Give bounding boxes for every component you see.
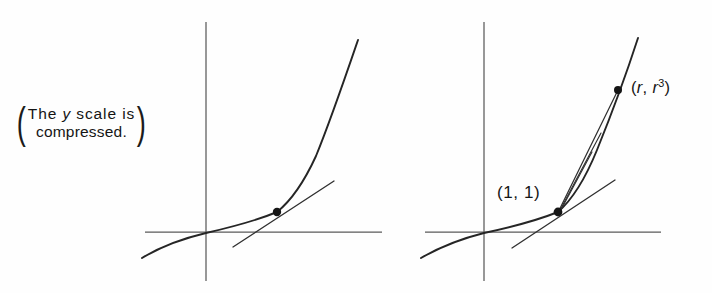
right-panel-secant-line-inner bbox=[559, 152, 592, 214]
right-panel-cubic-curve bbox=[421, 38, 638, 258]
label-r-sep: , bbox=[643, 78, 653, 96]
right-panel-point-r-r3 bbox=[614, 86, 622, 94]
figure-container: ( The y scale is compressed. ) (1, 1) (r… bbox=[0, 0, 712, 293]
note-close-paren: ) bbox=[137, 106, 146, 140]
note-line-2: compressed. bbox=[28, 123, 135, 140]
left-panel-group bbox=[142, 22, 382, 281]
right-panel-point-1-1 bbox=[554, 208, 563, 217]
right-panel-secant-line-middle bbox=[559, 133, 602, 213]
label-r-close: ) bbox=[665, 78, 671, 96]
note-line-1-suffix: scale is bbox=[71, 105, 135, 122]
point-label-r-r3: (r, r3) bbox=[631, 78, 670, 96]
note-text: The y scale is compressed. bbox=[27, 105, 136, 141]
figure-graphic bbox=[0, 0, 712, 293]
left-panel-tangency-point bbox=[273, 208, 281, 216]
y-scale-note: ( The y scale is compressed. ) bbox=[14, 105, 149, 141]
right-panel-secant-line-outer bbox=[558, 90, 618, 213]
note-line-1: The y scale is bbox=[28, 105, 135, 122]
note-line-1-prefix: The bbox=[28, 105, 63, 122]
left-panel-cubic-curve bbox=[142, 40, 358, 258]
point-label-1-1: (1, 1) bbox=[497, 183, 540, 202]
note-variable-y: y bbox=[62, 105, 71, 122]
right-panel-group bbox=[421, 22, 661, 281]
left-panel-tangent-line bbox=[233, 181, 334, 247]
note-open-paren: ( bbox=[17, 106, 26, 140]
